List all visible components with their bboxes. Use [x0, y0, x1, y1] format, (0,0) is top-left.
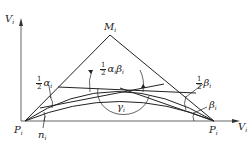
- y-axis-label: Vi: [5, 14, 14, 25]
- axes: [21, 24, 234, 121]
- gamma-label: γi: [117, 102, 125, 113]
- n-label: ni: [38, 130, 46, 141]
- half-alpha-beta-label: 12αiβi: [100, 62, 124, 77]
- y-axis-arrow-icon: [19, 18, 23, 26]
- n-leader: [43, 116, 45, 128]
- beta-leader: [194, 107, 207, 113]
- half-alpha-label: 12αi: [36, 76, 52, 91]
- x-axis-label: Vi: [238, 122, 247, 133]
- half-beta-label: 12βi: [196, 76, 211, 91]
- apex-label: Mi: [104, 22, 116, 33]
- beta-label: βi: [209, 100, 217, 111]
- right-endpoint-label: Pi: [209, 125, 218, 136]
- left-endpoint-label: Pi: [14, 125, 23, 136]
